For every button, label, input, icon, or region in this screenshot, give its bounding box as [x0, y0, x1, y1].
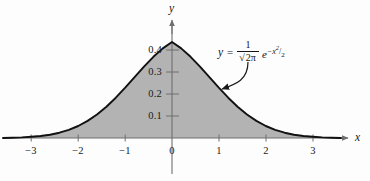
annotation-arrow: [222, 62, 248, 89]
equation-fraction: 1 √2π: [237, 40, 259, 63]
fraction-denominator: √2π: [237, 52, 259, 63]
radical-sign: √: [239, 53, 245, 63]
fraction-numerator: 1: [243, 40, 254, 51]
radicand: 2π: [245, 51, 257, 63]
x-tick-label-minus2: −2: [66, 145, 90, 156]
x-tick-label-zero: 0: [160, 145, 184, 156]
equation-annotation: y = 1 √2π e−x2/2: [218, 40, 285, 63]
x-tick-label-two: 2: [254, 145, 278, 156]
x-tick-label-one: 1: [207, 145, 231, 156]
y-tick-label-0.2: 0.2: [134, 88, 162, 99]
x-tick-label-minus1: −1: [113, 145, 137, 156]
equation-equals-sign: =: [226, 46, 234, 58]
y-tick-label-0.1: 0.1: [134, 110, 162, 121]
x-tick-label-minus3: −3: [19, 145, 43, 156]
normal-distribution-figure: 0.4 0.3 0.2 0.1 −3 −2 −1 0 1 2 3 y x y =…: [0, 0, 370, 181]
exponent-group: −x2/2: [267, 47, 285, 56]
y-tick-label-0.4: 0.4: [134, 44, 162, 55]
x-axis-label: x: [355, 131, 360, 143]
y-tick-label-0.3: 0.3: [134, 66, 162, 77]
exponential-term: e−x2/2: [262, 44, 285, 60]
equation-lhs: y: [218, 46, 223, 58]
y-axis-label: y: [169, 2, 174, 14]
exponent-denominator: 2: [281, 51, 285, 59]
x-tick-label-three: 3: [301, 145, 325, 156]
